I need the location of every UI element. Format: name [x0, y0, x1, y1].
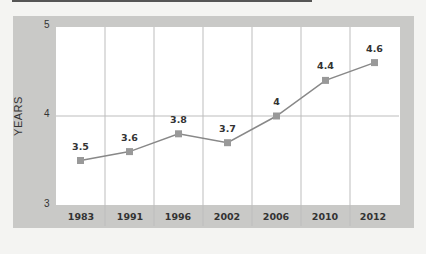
x-tick-label: 2012 [353, 211, 393, 222]
data-point-marker [322, 77, 329, 84]
data-point-marker [175, 130, 182, 137]
y-axis-label: YEARS [12, 96, 24, 136]
y-tick-5: 5 [44, 19, 50, 30]
x-tick-label: 2002 [207, 211, 247, 222]
data-point-marker [126, 148, 133, 155]
x-tick-label: 1983 [61, 211, 101, 222]
x-tick-label: 1991 [110, 211, 150, 222]
data-point-marker [224, 139, 231, 146]
x-tick-label: 2006 [256, 211, 296, 222]
y-tick-4: 4 [44, 108, 50, 119]
data-label: 3.8 [164, 114, 194, 125]
data-label: 4 [262, 96, 292, 107]
y-tick-3: 3 [44, 198, 50, 209]
data-label: 4.6 [360, 43, 390, 54]
x-tick-label: 2010 [305, 211, 345, 222]
data-point-marker [77, 157, 84, 164]
data-point-marker [273, 113, 280, 120]
data-label: 3.5 [66, 141, 96, 152]
x-tick-label: 1996 [158, 211, 198, 222]
data-label: 3.6 [115, 132, 145, 143]
data-point-marker [371, 59, 378, 66]
data-label: 4.4 [311, 60, 341, 71]
data-label: 3.7 [213, 123, 243, 134]
